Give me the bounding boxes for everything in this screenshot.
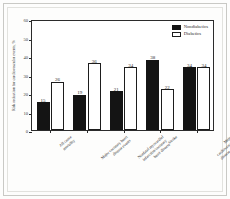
bar-group: 2134 — [110, 21, 138, 130]
bar-value-label: 38 — [150, 55, 155, 60]
legend-swatch-nondiabetics-icon — [172, 25, 181, 30]
bar-value-label: 34 — [128, 63, 133, 68]
y-tick-label: 20 — [23, 93, 28, 98]
bar-nondiabetics: 34 — [183, 67, 196, 130]
bar-nondiabetics: 21 — [110, 91, 123, 130]
y-tick-label: 60 — [23, 19, 28, 24]
legend-label-nondiabetics: Nondiabetics — [184, 25, 208, 30]
legend-swatch-diabetics-icon — [172, 32, 181, 37]
bar-diabetics: 26 — [51, 82, 64, 130]
x-category-label: All cause mortality — [59, 135, 77, 152]
legend-item-diabetics: Diabetics — [172, 32, 208, 37]
y-tick-mark — [29, 114, 32, 115]
legend-item-nondiabetics: Nondiabetics — [172, 25, 208, 30]
y-tick-mark — [29, 95, 32, 96]
figure-container: Risk reduction for cardiovascular events… — [0, 0, 230, 199]
bar-group: 3434 — [183, 21, 211, 130]
bar-nondiabetics: 15 — [37, 102, 50, 130]
y-tick-label: 10 — [23, 111, 28, 116]
bar-diabetics: 34 — [124, 67, 137, 130]
bar-value-label: 19 — [77, 90, 82, 95]
bar-diabetics: 36 — [88, 63, 101, 130]
x-category-label: Stroke — [168, 135, 179, 146]
y-tick-label: 30 — [23, 74, 28, 79]
bar-value-label: 36 — [92, 59, 97, 64]
legend-label-diabetics: Diabetics — [184, 32, 201, 37]
bar-group: 1936 — [73, 21, 101, 130]
bar-group: 1526 — [37, 21, 65, 130]
bar-value-label: 34 — [187, 63, 192, 68]
y-tick-label: 50 — [23, 37, 28, 42]
bar-value-label: 15 — [41, 98, 46, 103]
bar-value-label: 34 — [201, 63, 206, 68]
bar-nondiabetics: 19 — [73, 95, 86, 130]
bar-group: 3822 — [146, 21, 174, 130]
y-tick-mark — [29, 21, 32, 22]
bar-value-label: 21 — [114, 87, 119, 92]
y-tick-mark — [29, 40, 32, 41]
x-category-label: Major cardiovascular disease events — [209, 135, 230, 165]
x-category-label: Nonfatal myocardial infarction/coronary … — [137, 135, 171, 168]
bar-value-label: 26 — [55, 77, 60, 82]
y-tick-mark — [29, 77, 32, 78]
chart-legend: Nondiabetics Diabetics — [172, 25, 208, 37]
bar-diabetics: 22 — [161, 89, 174, 130]
y-tick-label: 40 — [23, 56, 28, 61]
y-tick-mark — [29, 58, 32, 59]
bar-value-label: 22 — [165, 85, 170, 90]
bar-nondiabetics: 38 — [146, 60, 159, 130]
x-category-label: Major coronary heart disease events — [100, 135, 132, 165]
plot-area: 0102030405060 15261936213438223434 Nondi… — [31, 20, 214, 131]
y-axis-title: Risk reduction for cardiovascular events… — [9, 20, 19, 131]
bar-diabetics: 34 — [197, 67, 210, 130]
x-axis-category-labels: All cause mortalityMajor coronary heart … — [0, 131, 230, 195]
